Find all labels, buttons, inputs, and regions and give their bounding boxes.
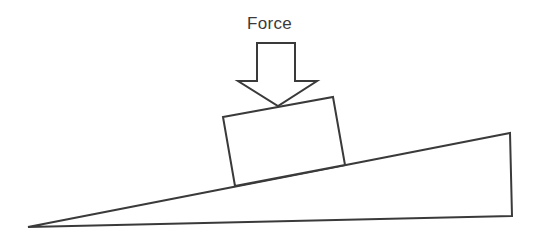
diagram-canvas: Force [0,0,538,234]
force-label: Force [247,14,292,34]
force-arrow-icon [238,43,317,106]
diagram-svg [0,0,538,234]
